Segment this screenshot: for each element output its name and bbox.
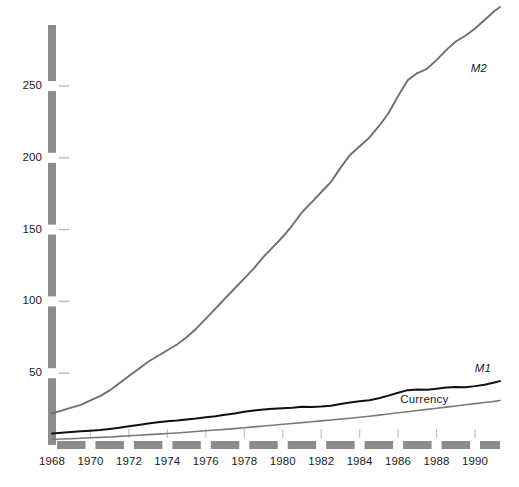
series-lines xyxy=(52,7,500,439)
y-axis-tick-label: 50 xyxy=(8,366,42,378)
chart-container: 50100150200250 1968197019721974197619781… xyxy=(0,0,519,487)
x-axis-tick-marks xyxy=(90,429,475,438)
y-axis-tick-marks xyxy=(59,86,69,373)
y-axis-tick-label: 150 xyxy=(8,223,42,235)
x-axis-tick-label: 1990 xyxy=(452,455,498,467)
series-label-currency: Currency xyxy=(400,393,448,405)
y-axis-tick-label: 200 xyxy=(8,151,42,163)
series-label-m1: M1 xyxy=(475,362,491,374)
series-label-m2: M2 xyxy=(471,62,487,74)
y-axis-tick-label: 100 xyxy=(8,294,42,306)
y-axis-bar xyxy=(48,25,56,445)
y-axis-tick-label: 250 xyxy=(8,79,42,91)
chart-plot-area xyxy=(0,0,519,487)
x-axis-bar xyxy=(57,441,500,449)
